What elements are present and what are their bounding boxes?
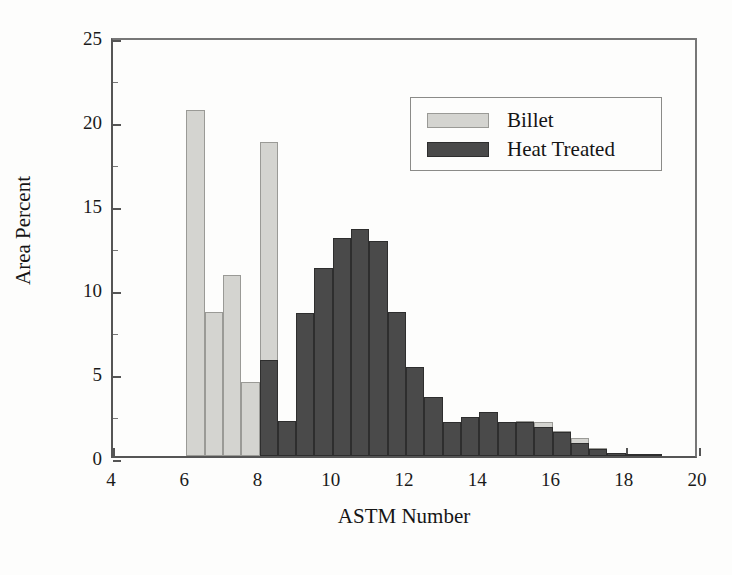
y-tick-label-20: 20 (83, 113, 102, 132)
x-tick-label-8: 8 (253, 470, 263, 489)
bar-billet-7.25 (223, 275, 241, 456)
y-tick-minor-2.5 (113, 418, 118, 419)
y-tick-label-25: 25 (83, 29, 102, 48)
y-tick-minor-17.5 (113, 166, 118, 167)
legend-label-heat-treated: Heat Treated (507, 139, 615, 160)
bar-heat-9.25 (296, 313, 314, 456)
y-tick-label-0: 0 (93, 449, 103, 468)
bar-heat-14.25 (479, 412, 497, 456)
bar-heat-15.75 (534, 427, 552, 456)
bar-heat-8.25 (260, 360, 278, 456)
legend-label-billet: Billet (507, 110, 554, 131)
bar-billet-6.75 (205, 312, 223, 456)
y-tick-20 (113, 124, 121, 126)
bar-heat-13.75 (461, 417, 479, 456)
bar-heat-15.25 (516, 422, 534, 456)
bar-heat-13.25 (443, 422, 461, 456)
bar-heat-9.75 (314, 268, 332, 456)
x-tick-label-4: 4 (106, 470, 116, 489)
bar-heat-16.25 (553, 432, 571, 456)
bar-heat-8.75 (278, 421, 296, 456)
y-tick-label-10: 10 (83, 281, 102, 300)
y-tick-minor-12.5 (113, 250, 118, 251)
y-axis-label: Area Percent (11, 146, 36, 316)
x-axis-label: ASTM Number (111, 504, 697, 529)
y-tick-label-5: 5 (93, 365, 103, 384)
y-tick-label-15: 15 (83, 197, 102, 216)
y-tick-25 (113, 40, 121, 42)
x-tick-label-6: 6 (180, 470, 190, 489)
bar-heat-16.75 (571, 443, 589, 456)
bar-heat-12.25 (406, 367, 424, 456)
x-tick-label-20: 20 (688, 470, 707, 489)
bar-heat-17.75 (607, 453, 625, 456)
bar-heat-11.25 (369, 241, 387, 456)
bar-heat-17.25 (589, 449, 607, 456)
y-tick-15 (113, 208, 121, 210)
x-tick-label-14: 14 (468, 470, 487, 489)
chart-figure: Area Percent 0510152025 468101214161820 … (0, 0, 732, 575)
x-tick-label-18: 18 (614, 470, 633, 489)
y-axis-tick-labels: 0510152025 (60, 38, 102, 458)
bar-heat-11.75 (388, 312, 406, 456)
y-tick-minor-7.5 (113, 334, 118, 335)
legend-item-heat-treated: Heat Treated (411, 135, 661, 164)
y-tick-10 (113, 292, 121, 294)
bar-heat-12.75 (424, 397, 442, 456)
bar-billet-7.75 (241, 382, 259, 456)
bar-heat-18.25 (626, 454, 644, 456)
x-axis-tick-labels: 468101214161820 (111, 470, 697, 496)
bar-heat-10.75 (351, 229, 369, 456)
legend-item-billet: Billet (411, 106, 661, 135)
legend-swatch-billet-icon (427, 113, 489, 128)
y-tick-minor-22.5 (113, 82, 118, 83)
x-tick-label-10: 10 (321, 470, 340, 489)
bar-billet-6.25 (186, 110, 204, 456)
bar-heat-14.75 (498, 422, 516, 456)
bar-heat-10.25 (333, 238, 351, 456)
x-tick-20 (699, 448, 701, 456)
x-tick-label-16: 16 (541, 470, 560, 489)
chart-legend: Billet Heat Treated (410, 97, 662, 171)
y-tick-0 (113, 460, 121, 462)
y-tick-5 (113, 376, 121, 378)
x-tick-label-12: 12 (395, 470, 414, 489)
legend-swatch-heat-treated-icon (427, 142, 489, 157)
bar-heat-18.75 (644, 454, 662, 456)
x-tick-4 (113, 448, 115, 456)
